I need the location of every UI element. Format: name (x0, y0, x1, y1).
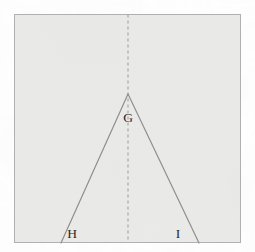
vertex-label-i: I (176, 226, 181, 241)
geometry-figure-container: G H I (0, 0, 255, 252)
vertex-label-g: G (123, 110, 133, 125)
geometry-figure-svg: G H I (0, 0, 255, 252)
vertex-label-h: H (67, 226, 77, 241)
